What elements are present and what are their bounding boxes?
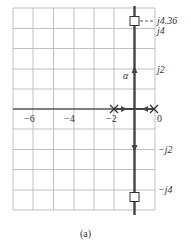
arrow-right-icon [121, 106, 127, 112]
square-marker-icon [130, 193, 139, 202]
tick-label-neg-j4: −j4 [158, 184, 173, 195]
tick-label-neg-j2: −j2 [158, 144, 173, 155]
tick-label-neg6: −6 [24, 113, 35, 124]
root-locus-diagram: j4.36 j4 j2 −j2 −j4 −6 −4 −2 0 α (a) [0, 0, 191, 243]
tick-label-j2: j2 [155, 64, 165, 75]
tick-label-neg4: −4 [64, 113, 75, 124]
branch-label-alpha: α [123, 70, 129, 81]
square-marker-icon [130, 17, 139, 26]
tick-label-neg2: −2 [106, 113, 117, 124]
figure-caption: (a) [80, 228, 91, 240]
arrow-left-icon [142, 106, 148, 112]
tick-label-0: 0 [157, 113, 162, 124]
arrow-down-icon [132, 145, 138, 152]
tick-label-j4: j4 [155, 25, 165, 36]
